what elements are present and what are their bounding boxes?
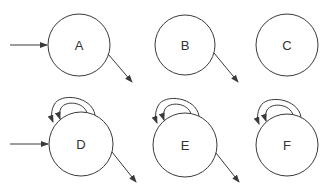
node-f: F (256, 99, 318, 176)
node-e-outgoing-arrow-icon (216, 153, 239, 182)
node-b: B (155, 15, 238, 82)
node-a-outgoing-arrow-icon (108, 54, 132, 82)
node-e: E (153, 98, 239, 182)
node-e-label: E (181, 138, 190, 153)
node-c: C (256, 14, 318, 76)
node-b-label: B (181, 38, 190, 53)
state-diagram: A B C D E F (0, 0, 329, 193)
node-a-label: A (75, 38, 84, 53)
node-c-label: C (282, 38, 291, 53)
node-f-self-loop-inner-icon (265, 105, 293, 121)
node-f-self-loop-outer-icon (258, 99, 301, 124)
node-d-self-loop-outer-icon (52, 97, 95, 122)
node-d-outgoing-arrow-icon (112, 152, 136, 182)
node-b-outgoing-arrow-icon (214, 53, 238, 82)
node-d: D (10, 97, 136, 182)
node-e-self-loop-outer-icon (156, 98, 199, 123)
node-a: A (10, 14, 132, 82)
node-d-label: D (76, 137, 85, 152)
node-f-label: F (283, 138, 291, 153)
